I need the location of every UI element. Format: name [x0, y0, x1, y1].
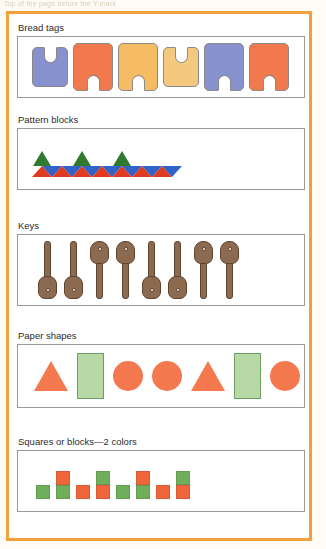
- key-hole: [46, 288, 50, 292]
- bread-tag: [118, 43, 158, 91]
- pattern-block-blue-triangle: [162, 166, 182, 177]
- block-cube-green: [96, 471, 110, 485]
- key: [64, 241, 83, 299]
- key-blade: [174, 241, 181, 279]
- block-stack: [76, 485, 90, 499]
- key-hole: [202, 247, 206, 251]
- key-blade: [96, 261, 103, 299]
- key-blade: [148, 241, 155, 279]
- key-blade: [122, 261, 129, 299]
- bread-tag-notch: [218, 75, 231, 91]
- keys-row: [18, 235, 304, 305]
- bread-tag: [32, 47, 68, 87]
- key-bow: [116, 241, 135, 264]
- section-label-pattern-blocks: Pattern blocks: [18, 114, 305, 125]
- block-cube-orange: [96, 485, 110, 499]
- section-label-keys: Keys: [18, 220, 305, 231]
- pattern-block-green-triangle: [73, 151, 91, 166]
- key: [220, 241, 239, 299]
- block-stack: [176, 471, 190, 499]
- block-stack: [156, 485, 170, 499]
- block-cube-green: [56, 485, 70, 499]
- block-cube-orange: [136, 471, 150, 485]
- bread-tag: [163, 47, 199, 87]
- top-caption: Top of the page before the Y mark: [4, 0, 214, 9]
- block-cube-green: [36, 485, 50, 499]
- bread-tag: [73, 43, 113, 91]
- key-blade: [200, 261, 207, 299]
- paper-shape-triangle: [191, 361, 225, 391]
- block-stack: [96, 471, 110, 499]
- key: [168, 241, 187, 299]
- key-hole: [98, 247, 102, 251]
- bread-tag-notch: [87, 75, 100, 91]
- block-stack: [36, 485, 50, 499]
- key-hole: [72, 288, 76, 292]
- section-label-squares-blocks: Squares or blocks—2 colors: [18, 436, 305, 447]
- section-bread-tags: Bread tags: [17, 22, 305, 98]
- section-paper-shapes: Paper shapes: [17, 330, 305, 408]
- key-bow: [220, 241, 239, 264]
- key-hole: [176, 288, 180, 292]
- block-cube-green: [136, 485, 150, 499]
- key-blade: [44, 241, 51, 279]
- paper-shape-rectangle: [77, 353, 104, 399]
- key-hole: [228, 247, 232, 251]
- key-blade: [226, 261, 233, 299]
- block-stack: [116, 485, 130, 499]
- key: [194, 241, 213, 299]
- block-stack: [56, 471, 70, 499]
- panel-keys: [17, 234, 305, 306]
- key: [90, 241, 109, 299]
- squares-blocks-row: [18, 451, 304, 511]
- key: [142, 241, 161, 299]
- paper-shapes-row: [18, 345, 304, 407]
- key-bow: [90, 241, 109, 264]
- paper-shape-circle: [270, 361, 300, 391]
- key-hole: [150, 288, 154, 292]
- panel-squares-blocks: [17, 450, 305, 512]
- bread-tag-notch: [175, 47, 188, 63]
- block-cube-green: [176, 471, 190, 485]
- key-hole: [124, 247, 128, 251]
- block-cube-orange: [156, 485, 170, 499]
- panel-pattern-blocks: [17, 128, 305, 190]
- key-blade: [70, 241, 77, 279]
- bread-tag: [249, 43, 289, 91]
- key-bow: [194, 241, 213, 264]
- bread-tag: [204, 43, 244, 91]
- block-cube-orange: [76, 485, 90, 499]
- pattern-block-green-triangle: [113, 151, 131, 166]
- bread-tag-notch: [263, 75, 276, 91]
- panel-bread-tags: [17, 36, 305, 98]
- bread-tag-notch: [132, 75, 145, 91]
- block-stack: [136, 471, 150, 499]
- bread-tag-notch: [44, 47, 57, 63]
- block-cube-orange: [176, 485, 190, 499]
- section-pattern-blocks: Pattern blocks: [17, 114, 305, 190]
- section-label-paper-shapes: Paper shapes: [18, 330, 305, 341]
- block-cube-green: [116, 485, 130, 499]
- section-squares-blocks: Squares or blocks—2 colors: [17, 436, 305, 512]
- bread-tags-row: [18, 37, 304, 97]
- block-cube-orange: [56, 471, 70, 485]
- section-label-bread-tags: Bread tags: [18, 22, 305, 33]
- pattern-blocks-strip: [32, 145, 182, 177]
- paper-shape-rectangle: [234, 353, 261, 399]
- page-frame: Bread tags Pattern blocks Keys Paper sha…: [6, 11, 312, 541]
- key: [38, 241, 57, 299]
- paper-shape-circle: [152, 361, 182, 391]
- section-keys: Keys: [17, 220, 305, 306]
- paper-shape-circle: [113, 361, 143, 391]
- panel-paper-shapes: [17, 344, 305, 408]
- paper-shape-triangle: [34, 361, 68, 391]
- pattern-block-green-triangle: [33, 151, 51, 166]
- key: [116, 241, 135, 299]
